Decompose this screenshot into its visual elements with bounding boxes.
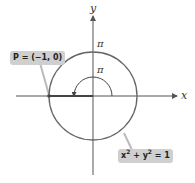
arc-length-pi-label: π bbox=[96, 38, 104, 49]
point-callout-leader bbox=[40, 63, 49, 95]
circle-equation-callout: x2 + y2 = 1 bbox=[118, 149, 173, 163]
angle-pi-label: π bbox=[96, 64, 104, 75]
x-axis-label: x bbox=[181, 89, 188, 102]
point-p bbox=[47, 94, 51, 98]
point-p-label: P = (−1, 0) bbox=[13, 53, 62, 62]
y-axis-label: y bbox=[89, 2, 97, 15]
equation-y-exponent: 2 bbox=[148, 148, 152, 155]
equation-x-exponent: 2 bbox=[126, 148, 130, 155]
point-p-callout: P = (−1, 0) bbox=[10, 51, 65, 65]
equation-rhs: = 1 bbox=[155, 151, 170, 160]
